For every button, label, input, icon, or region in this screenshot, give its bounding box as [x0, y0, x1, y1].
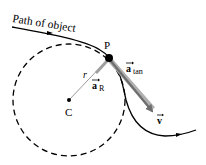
a-r-vector: [96, 61, 107, 73]
a-tan-label: a tan: [126, 62, 143, 77]
point-p: [105, 54, 113, 62]
svg-text:v: v: [157, 115, 162, 126]
velocity-vector: [110, 60, 152, 111]
a-r-label: a R: [92, 79, 105, 94]
path-direction-arrow-2: [176, 133, 182, 137]
radius-label: r: [83, 69, 87, 80]
svg-text:a: a: [126, 63, 131, 74]
path-label: Path of object: [12, 12, 78, 35]
center-c-label: C: [65, 106, 72, 118]
svg-text:tan: tan: [133, 67, 143, 76]
point-p-label: P: [104, 39, 110, 51]
circular-motion-diagram: Path of object P C r a R a tan v: [0, 0, 206, 165]
velocity-label: v: [157, 114, 164, 126]
svg-text:a: a: [92, 80, 97, 91]
svg-text:R: R: [99, 84, 105, 93]
center-c: [67, 98, 71, 102]
